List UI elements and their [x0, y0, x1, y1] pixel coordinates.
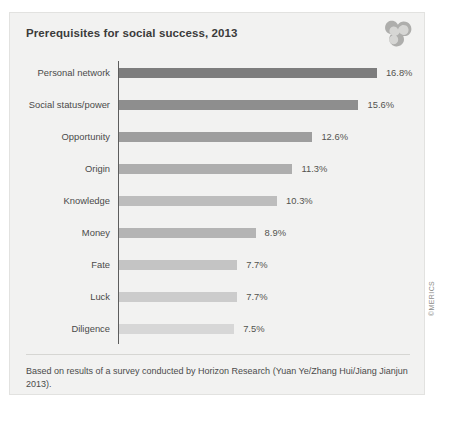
bar-value-label: 10.3%: [286, 185, 313, 217]
bar-track: [119, 249, 237, 281]
copyright-label: ©MERICS: [428, 281, 435, 316]
bar-category-label: Money: [10, 217, 110, 249]
bar-row: Origin 11.3%: [10, 153, 426, 185]
bar-chart-plot: Personal network 16.8% Social status/pow…: [10, 57, 426, 347]
bar-category-label: Origin: [10, 153, 110, 185]
bar-category-label: Knowledge: [10, 185, 110, 217]
bar-rect: [119, 260, 237, 270]
bar-category-label: Fate: [10, 249, 110, 281]
bar-category-label: Diligence: [10, 313, 110, 345]
merics-swoosh-logo-icon: [380, 19, 414, 49]
bar-value-label: 7.7%: [246, 281, 267, 313]
bar-rect: [119, 132, 312, 142]
bar-category-label: Luck: [10, 281, 110, 313]
bar-rect: [119, 164, 292, 174]
bar-category-label: Opportunity: [10, 121, 110, 153]
footnote-divider: [26, 354, 410, 355]
bar-track: [119, 153, 292, 185]
bar-row: Fate 7.7%: [10, 249, 426, 281]
bar-row: Luck 7.7%: [10, 281, 426, 313]
bar-row: Knowledge 10.3%: [10, 185, 426, 217]
bar-rect: [119, 292, 237, 302]
bar-rect: [119, 196, 277, 206]
bar-rect: [119, 324, 234, 334]
bar-track: [119, 89, 358, 121]
page-title: Prerequisites for social success, 2013: [26, 27, 238, 39]
bar-value-label: 11.3%: [301, 153, 327, 185]
bar-row: Personal network 16.8%: [10, 57, 426, 89]
bar-track: [119, 281, 237, 313]
bar-value-label: 8.9%: [265, 217, 286, 249]
bar-category-label: Social status/power: [10, 89, 110, 121]
bar-row: Social status/power 15.6%: [10, 89, 426, 121]
bar-track: [119, 57, 377, 89]
bar-category-label: Personal network: [10, 57, 110, 89]
bar-value-label: 7.5%: [243, 313, 264, 345]
bar-row: Diligence 7.5%: [10, 313, 426, 345]
bar-row: Opportunity 12.6%: [10, 121, 426, 153]
footnote-text: Based on results of a survey conducted b…: [26, 365, 414, 391]
bar-row: Money 8.9%: [10, 217, 426, 249]
bar-value-label: 15.6%: [367, 89, 394, 121]
bar-track: [119, 185, 277, 217]
bar-track: [119, 217, 256, 249]
bar-track: [119, 121, 312, 153]
bar-value-label: 16.8%: [386, 57, 413, 89]
bar-rect: [119, 68, 377, 78]
bar-rect: [119, 100, 358, 110]
bar-value-label: 12.6%: [321, 121, 348, 153]
chart-figure: Prerequisites for social success, 2013 P…: [9, 12, 425, 395]
bar-track: [119, 313, 234, 345]
bar-value-label: 7.7%: [246, 249, 267, 281]
bar-rect: [119, 228, 256, 238]
